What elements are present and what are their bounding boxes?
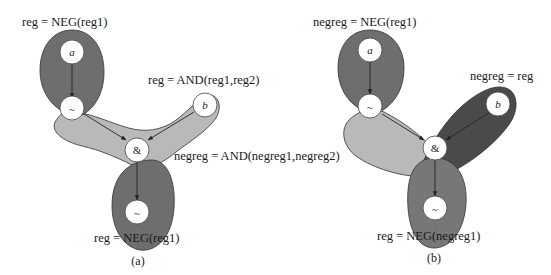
panel-b: a ~ b & ~ negreg = NEG(reg1) negreg = re… xyxy=(313,15,534,265)
node-and: & xyxy=(125,138,149,162)
node-b: b xyxy=(486,92,510,116)
node-a: a xyxy=(358,38,382,62)
label-negreg-neg: negreg = NEG(reg1) xyxy=(313,15,417,29)
label-neg-bottom: reg = NEG(reg1) xyxy=(94,231,180,245)
caption-a: (a) xyxy=(131,254,144,268)
svg-text:~: ~ xyxy=(432,203,438,215)
svg-text:~: ~ xyxy=(367,101,373,113)
label-neg-top: reg = NEG(reg1) xyxy=(22,15,108,29)
svg-text:&: & xyxy=(133,144,142,156)
node-a: a xyxy=(60,40,84,64)
caption-b: (b) xyxy=(427,251,441,265)
svg-text:b: b xyxy=(202,99,208,111)
node-neg-bottom: ~ xyxy=(423,196,447,220)
svg-text:a: a xyxy=(367,44,373,56)
node-neg-top: ~ xyxy=(60,96,84,120)
label-negreg-and: negreg = AND(negreg1,negreg2) xyxy=(174,149,340,163)
svg-text:b: b xyxy=(495,98,501,110)
panel-a: a ~ b & ~ reg = NEG(reg1) reg = AND(reg1… xyxy=(22,15,340,268)
label-negreg-reg: negreg = reg xyxy=(470,69,534,83)
node-b: b xyxy=(193,93,217,117)
node-neg-bottom: ~ xyxy=(125,200,149,224)
node-and: & xyxy=(423,136,447,160)
svg-text:a: a xyxy=(69,46,75,58)
label-neg-bottom: reg = NEG(negreg1) xyxy=(377,229,481,243)
svg-text:&: & xyxy=(431,142,440,154)
node-neg-top: ~ xyxy=(358,94,382,118)
svg-text:~: ~ xyxy=(134,207,140,219)
tree-covering-figure: a ~ b & ~ reg = NEG(reg1) reg = AND(reg1… xyxy=(0,0,551,275)
label-and: reg = AND(reg1,reg2) xyxy=(148,73,260,87)
svg-text:~: ~ xyxy=(69,103,75,115)
